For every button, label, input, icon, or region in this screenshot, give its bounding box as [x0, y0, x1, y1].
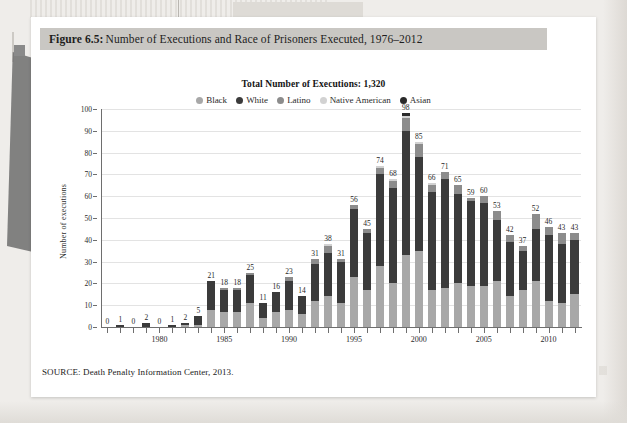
bar-segment-black	[480, 286, 488, 327]
bar-segment-black	[233, 312, 241, 327]
x-tick-mark	[354, 328, 355, 333]
legend-label: Asian	[410, 95, 431, 105]
bar-segment-white	[272, 292, 280, 312]
x-tick-mark	[172, 328, 173, 333]
bar-value-label: 31	[311, 249, 319, 258]
bar-segment-latino	[454, 185, 462, 194]
x-tick-label: 2005	[476, 335, 492, 344]
bar-column	[285, 277, 293, 327]
bar-segment-white	[246, 275, 254, 303]
bar-segment-white	[207, 281, 215, 309]
x-tick-mark	[367, 328, 368, 333]
x-tick-mark	[471, 328, 472, 333]
bar-segment-white	[298, 296, 306, 313]
bar-column	[558, 233, 566, 327]
x-tick-label: 2000	[411, 335, 427, 344]
x-tick-mark	[484, 328, 485, 333]
bar-segment-black	[519, 290, 527, 327]
bar-segment-black	[220, 312, 228, 327]
bar-column	[259, 303, 267, 327]
x-tick-mark	[276, 328, 277, 333]
y-axis-ticks: 0102030405060708090100	[67, 109, 97, 327]
chart-legend: BlackWhiteLatinoNative AmericanAsian	[31, 95, 596, 105]
legend-label: Black	[206, 95, 227, 105]
y-tick-mark	[93, 218, 97, 219]
legend-label: Native American	[330, 95, 391, 105]
bar-value-label: 45	[363, 219, 371, 228]
x-tick-mark	[406, 328, 407, 333]
bar-column	[545, 227, 553, 327]
bar-value-label: 59	[467, 188, 475, 197]
bar-column	[142, 323, 150, 327]
bar-column	[454, 185, 462, 327]
bar-segment-white	[337, 262, 345, 303]
legend-label: Latino	[287, 95, 311, 105]
bar-column	[181, 323, 189, 327]
bar-column	[311, 259, 319, 327]
x-tick-mark	[497, 328, 498, 333]
bar-column	[389, 179, 397, 327]
legend-swatch-icon	[277, 97, 284, 104]
scan-artifact-bottom-fade	[0, 401, 627, 423]
bar-column	[194, 316, 202, 327]
bar-value-label: 38	[324, 234, 332, 243]
x-tick-mark	[133, 328, 134, 333]
x-tick-mark	[250, 328, 251, 333]
x-tick-mark	[549, 328, 550, 333]
x-tick-label: 1990	[281, 335, 297, 344]
bar-value-label: 23	[285, 267, 293, 276]
bar-value-label: 11	[260, 293, 267, 302]
x-tick-mark	[211, 328, 212, 333]
bar-segment-latino	[415, 144, 423, 157]
x-tick-mark	[120, 328, 121, 333]
bar-segment-white	[389, 188, 397, 284]
figure-card: Figure 6.5: Number of Executions and Rac…	[31, 17, 596, 397]
x-tick-mark	[107, 328, 108, 333]
bar-segment-black	[532, 281, 540, 327]
bar-value-label: 74	[376, 156, 384, 165]
bar-series-container: 0102012521181825111623143138315645746898…	[101, 109, 581, 327]
y-tick-mark	[93, 153, 97, 154]
y-tick-mark	[93, 283, 97, 284]
bar-column	[415, 142, 423, 327]
bar-column	[441, 172, 449, 327]
legend-label: White	[246, 95, 268, 105]
bar-value-label: 42	[506, 225, 514, 234]
bar-column	[324, 244, 332, 327]
bar-column	[337, 259, 345, 327]
y-tick-mark	[93, 196, 97, 197]
bar-segment-latino	[558, 233, 566, 244]
bar-value-label: 31	[337, 249, 345, 258]
bar-column	[168, 325, 176, 327]
bar-segment-white	[441, 179, 449, 288]
y-tick-label: 40	[66, 235, 92, 244]
bar-segment-white	[402, 131, 410, 255]
bar-column	[532, 214, 540, 327]
source-note: SOURCE: Death Penalty Information Center…	[42, 367, 234, 377]
bar-column	[480, 196, 488, 327]
bar-column	[376, 166, 384, 327]
bar-value-label: 56	[350, 195, 358, 204]
y-tick-mark	[93, 327, 97, 328]
x-tick-mark	[224, 328, 225, 333]
x-tick-mark	[302, 328, 303, 333]
bar-segment-black	[570, 294, 578, 327]
bar-segment-white	[480, 203, 488, 286]
bar-segment-black	[259, 318, 267, 327]
bar-segment-black	[545, 301, 553, 327]
bar-value-label: 52	[532, 204, 540, 213]
bar-segment-white	[428, 192, 436, 290]
legend-swatch-icon	[320, 97, 327, 104]
bar-value-label: 2	[145, 313, 149, 322]
bar-segment-black	[493, 281, 501, 327]
bar-value-label: 1	[119, 315, 123, 324]
bar-segment-black	[350, 277, 358, 327]
bar-segment-white	[493, 220, 501, 281]
x-tick-mark	[159, 328, 160, 333]
bar-value-label: 43	[571, 223, 579, 232]
x-axis-ticks	[101, 328, 582, 334]
bar-column	[428, 183, 436, 327]
bar-value-label: 5	[196, 306, 200, 315]
bar-segment-latino	[545, 227, 553, 236]
bar-segment-white	[376, 174, 384, 266]
